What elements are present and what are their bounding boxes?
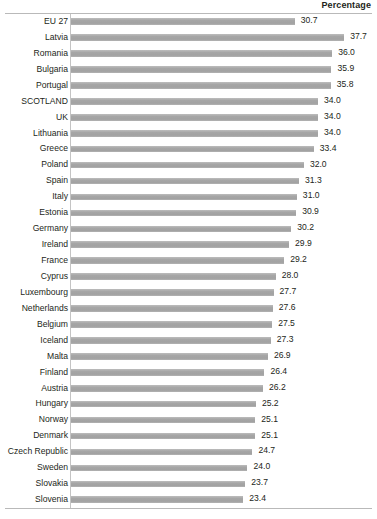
bar-value-label: 29.9 [295,238,312,248]
bar-fill [71,114,318,121]
bar-fill [71,257,284,264]
bar-value-label: 26.4 [270,366,287,376]
category-label: Germany [0,223,68,233]
category-label: Luxembourg [0,287,68,297]
bar [71,114,318,121]
bar-value-label: 29.2 [290,254,307,264]
category-label: Estonia [0,207,68,217]
bar [71,417,255,424]
bar-value-label: 24.0 [253,461,270,471]
bar-value-label: 24.7 [258,445,275,455]
bar [71,194,297,201]
bar [71,401,256,408]
category-label: Romania [0,48,68,58]
bar [71,385,263,392]
bar-value-label: 36.0 [338,47,355,57]
category-label: Netherlands [0,303,68,313]
bar-fill [71,194,297,201]
bar [71,18,295,25]
bar [71,449,252,456]
bar-row: Cyprus28.0 [0,269,377,285]
bar [71,353,268,360]
category-label: France [0,255,68,265]
bar-row: Estonia30.9 [0,205,377,221]
bar-row: Belgium27.5 [0,317,377,333]
bar-fill [71,417,255,424]
bar-value-label: 23.7 [251,477,268,487]
bar-row: Austria26.2 [0,381,377,397]
bar-row: EU 2730.7 [0,14,377,30]
category-label: SCOTLAND [0,96,68,106]
bar [71,210,296,217]
bar-row: Lithuania34.0 [0,126,377,142]
bar [71,273,276,280]
bar [71,66,331,73]
bar-value-label: 37.7 [350,31,367,41]
category-label: Portugal [0,80,68,90]
bar-row: Luxembourg27.7 [0,285,377,301]
bar-fill [71,337,271,344]
category-label: Cyprus [0,271,68,281]
bar-value-label: 34.0 [324,111,341,121]
bar-row-list: EU 2730.7Latvia37.7Romania36.0Bulgaria35… [0,14,377,508]
category-label: Ireland [0,239,68,249]
bar-fill [71,130,318,137]
category-label: EU 27 [0,16,68,26]
bar-fill [71,66,331,73]
category-label: Austria [0,383,68,393]
bar [71,98,318,105]
bar-row: Czech Republic24.7 [0,444,377,460]
bar-fill [71,465,247,472]
category-label: Latvia [0,32,68,42]
bar-fill [71,496,243,503]
bar [71,433,255,440]
category-label: Finland [0,367,68,377]
bar-row: Iceland27.3 [0,333,377,349]
bar-fill [71,98,318,105]
bar [71,481,245,488]
bar-value-label: 30.7 [301,15,318,25]
bar-value-label: 33.4 [320,143,337,153]
bar-row: Latvia37.7 [0,30,377,46]
bar-row: Germany30.2 [0,221,377,237]
bar-value-label: 26.9 [274,350,291,360]
bar-value-label: 34.0 [324,95,341,105]
bar [71,34,344,41]
category-label: Belgium [0,319,68,329]
category-label: Hungary [0,398,68,408]
bar-fill [71,226,291,233]
bar-fill [71,401,256,408]
bar-value-label: 34.0 [324,127,341,137]
bar-value-label: 30.2 [297,222,314,232]
bar-fill [71,241,289,248]
bar-value-label: 31.0 [303,190,320,200]
bar-row: Poland32.0 [0,157,377,173]
bar-row: Norway25.1 [0,412,377,428]
bar [71,226,291,233]
chart-header: Percentage [5,0,372,13]
bar [71,162,304,169]
bar-fill [71,449,252,456]
bar-fill [71,210,296,217]
category-label: Iceland [0,335,68,345]
category-label: Poland [0,159,68,169]
bar-value-label: 25.1 [261,430,278,440]
bar-row: Hungary25.2 [0,396,377,412]
bar-fill [71,273,276,280]
bar-row: Greece33.4 [0,141,377,157]
bar-row: Spain31.3 [0,173,377,189]
bar-row: Bulgaria35.9 [0,62,377,78]
bar-row: Slovenia23.4 [0,492,377,508]
bar-value-label: 28.0 [282,270,299,280]
bar [71,321,272,328]
bar-row: SCOTLAND34.0 [0,94,377,110]
bar-fill [71,385,263,392]
bar-fill [71,34,344,41]
bar-value-label: 27.7 [280,286,297,296]
bar-fill [71,82,331,89]
bar-row: Slovakia23.7 [0,476,377,492]
bar [71,369,264,376]
bar-row: Italy31.0 [0,189,377,205]
bar-row: Denmark25.1 [0,428,377,444]
plot-area: EU 2730.7Latvia37.7Romania36.0Bulgaria35… [0,14,377,508]
